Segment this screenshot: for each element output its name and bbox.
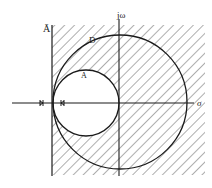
label-a: A [81,71,87,80]
label-a-bar: Ā [43,23,51,34]
label-sigma: σ [197,98,202,108]
label-d: D [89,35,96,45]
label-j-omega: jω [116,10,126,20]
hatched-region [52,25,205,175]
s-plane-diagram: Ā D jω A σ [0,0,212,188]
